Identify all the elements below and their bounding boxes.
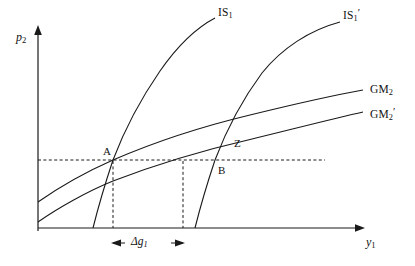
delta-g-measure-group: [111, 239, 185, 246]
guide-lines-group: [38, 160, 325, 228]
y-axis-arrowhead: [34, 25, 42, 35]
delta-g-label-main: Δg: [131, 235, 144, 247]
is1-prime-curve: [195, 22, 340, 228]
is1-label-sub: 1: [228, 11, 232, 20]
y-axis-label: p2: [16, 31, 26, 45]
is1-prime-label-prime: ′: [358, 6, 361, 18]
is1-prime-curve-label: IS1′: [343, 7, 360, 24]
is1-label-main: IS: [218, 6, 228, 18]
delta-g-label-sub: 1: [144, 240, 148, 249]
gm2-prime-curve-label: GM2′: [370, 106, 395, 123]
gm2-curve: [38, 90, 363, 202]
is1-curve-label: IS1: [218, 7, 233, 20]
x-axis-label: y1: [366, 236, 376, 250]
x-axis-label-sub: 1: [371, 240, 375, 250]
x-axis-arrowhead: [355, 224, 365, 232]
gm2-label-main: GM: [370, 83, 389, 95]
curves-group: [38, 18, 363, 228]
gm2-curve-label: GM2: [370, 84, 393, 97]
y-axis-label-sub: 2: [22, 35, 26, 45]
point-label-a: A: [103, 146, 111, 157]
point-label-b: B: [218, 165, 225, 176]
delta-g-right-arrowhead: [175, 239, 185, 246]
gm2-label-sub: 2: [389, 88, 393, 97]
gm2-prime-label-main: GM: [370, 108, 389, 120]
point-label-z: Z: [234, 138, 241, 149]
delta-g-annotation-label: Δg1: [131, 236, 148, 249]
is1-prime-label-main: IS: [343, 9, 353, 21]
gm2-prime-label-prime: ′: [393, 105, 396, 117]
diagram-canvas: [0, 0, 415, 266]
is1-curve: [93, 18, 215, 228]
economics-diagram: p2 y1 IS1 IS1′ GM2 GM2′ A B Z Δg1: [0, 0, 415, 266]
delta-g-left-arrowhead: [111, 239, 121, 246]
